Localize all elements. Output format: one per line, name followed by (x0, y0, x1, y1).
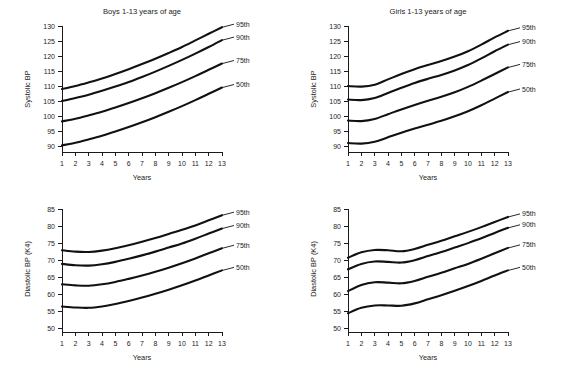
girls-diastolic-y-tick-label: 60 (333, 291, 341, 298)
boys-diastolic-x-tick-label: 3 (87, 340, 91, 347)
boys-systolic-x-tick-label: 10 (178, 160, 186, 167)
girls-diastolic-y-tick-label: 75 (333, 240, 341, 247)
girls-systolic-percentile-label-50th: 50th (522, 86, 536, 93)
boys-diastolic-curve-95th (62, 215, 222, 252)
girls-diastolic-svg: 505560657075808512345678910111213Diastol… (286, 190, 571, 380)
boys-systolic-xlabel: Years (133, 173, 152, 182)
boys-diastolic-x-tick-label: 1 (60, 340, 64, 347)
girls-systolic-title: Girls 1-13 years of age (390, 7, 467, 16)
boys-systolic-leader-95th (223, 24, 235, 27)
girls-systolic-x-tick-label: 11 (478, 160, 485, 167)
boys-systolic-x-tick-label: 13 (218, 160, 226, 167)
boys-diastolic-x-tick-label: 5 (113, 340, 117, 347)
girls-systolic-leader-95th (509, 28, 521, 31)
boys-diastolic-curve-90th (62, 228, 222, 265)
boys-systolic-leader-75th (223, 61, 235, 64)
panel-boys-diastolic: 505560657075808512345678910111213Diastol… (0, 190, 285, 380)
boys-diastolic-percentile-label-75th: 75th (236, 242, 250, 249)
girls-diastolic-y-tick-label: 55 (333, 308, 341, 315)
girls-systolic-ylabel: Systolic BP (309, 70, 318, 107)
girls-systolic-xlabel: Years (419, 173, 438, 182)
girls-systolic-x-tick-label: 2 (359, 160, 363, 167)
boys-diastolic-svg: 505560657075808512345678910111213Diastol… (0, 190, 285, 380)
boys-diastolic-x-tick-label: 12 (205, 340, 213, 347)
boys-systolic-curve-90th (62, 40, 222, 101)
girls-systolic-y-tick-label: 120 (329, 53, 341, 60)
boys-diastolic-x-tick-label: 7 (140, 340, 144, 347)
girls-diastolic-x-tick-label: 5 (399, 340, 403, 347)
boys-diastolic-x-tick-label: 11 (192, 340, 199, 347)
boys-diastolic-y-tick-label: 75 (47, 240, 55, 247)
boys-systolic-x-tick-label: 6 (127, 160, 131, 167)
girls-systolic-x-tick-label: 9 (453, 160, 457, 167)
boys-diastolic-y-tick-label: 70 (47, 257, 55, 264)
panel-girls-diastolic: 505560657075808512345678910111213Diastol… (286, 190, 571, 380)
girls-diastolic-x-tick-label: 12 (491, 340, 499, 347)
girls-diastolic-y-tick-label: 85 (333, 206, 341, 213)
girls-diastolic-x-tick-label: 13 (504, 340, 512, 347)
girls-diastolic-ylabel: Diastolic BP (K4) (309, 241, 318, 297)
girls-systolic-svg: Girls 1-13 years of age90951001051101151… (286, 0, 571, 190)
boys-diastolic-leader-90th (223, 225, 235, 228)
boys-diastolic-y-tick-label: 60 (47, 291, 55, 298)
girls-systolic-y-tick-label: 110 (330, 83, 341, 90)
boys-systolic-x-tick-label: 2 (73, 160, 77, 167)
boys-systolic-y-tick-label: 115 (44, 68, 55, 75)
boys-systolic-curve-95th (62, 27, 222, 89)
boys-diastolic-y-tick-label: 85 (47, 206, 55, 213)
boys-systolic-x-tick-label: 1 (60, 160, 64, 167)
boys-systolic-curve-75th (62, 64, 222, 122)
boys-diastolic-y-tick-label: 80 (47, 223, 55, 230)
girls-systolic-x-tick-label: 5 (399, 160, 403, 167)
girls-diastolic-y-tick-label: 65 (333, 274, 341, 281)
girls-systolic-leader-50th (509, 89, 521, 92)
girls-diastolic-percentile-label-75th: 75th (522, 241, 536, 248)
girls-diastolic-x-tick-label: 7 (426, 340, 430, 347)
girls-systolic-percentile-label-95th: 95th (522, 24, 536, 31)
girls-systolic-x-tick-label: 10 (464, 160, 472, 167)
girls-diastolic-curve-90th (348, 228, 508, 270)
girls-systolic-y-tick-label: 90 (333, 143, 341, 150)
girls-diastolic-y-tick-label: 50 (333, 325, 341, 332)
girls-diastolic-x-tick-label: 2 (359, 340, 363, 347)
girls-diastolic-xlabel: Years (419, 353, 438, 362)
girls-diastolic-x-tick-label: 4 (386, 340, 390, 347)
girls-diastolic-x-tick-label: 3 (373, 340, 377, 347)
boys-systolic-y-tick-label: 100 (43, 113, 55, 120)
girls-diastolic-percentile-label-90th: 90th (522, 221, 536, 228)
boys-systolic-percentile-label-90th: 90th (236, 34, 250, 41)
boys-diastolic-x-tick-label: 6 (127, 340, 131, 347)
boys-diastolic-xlabel: Years (133, 353, 152, 362)
boys-diastolic-y-tick-label: 55 (47, 308, 55, 315)
girls-diastolic-leader-90th (509, 225, 521, 228)
boys-systolic-percentile-label-50th: 50th (236, 81, 250, 88)
boys-systolic-percentile-label-95th: 95th (236, 21, 250, 28)
boys-systolic-y-tick-label: 95 (47, 128, 55, 135)
boys-systolic-y-tick-label: 120 (43, 53, 55, 60)
boys-diastolic-percentile-label-50th: 50th (236, 264, 250, 271)
boys-diastolic-x-tick-label: 13 (218, 340, 226, 347)
girls-systolic-y-tick-label: 125 (329, 38, 341, 45)
panel-boys-systolic: Boys 1-13 years of age909510010511011512… (0, 0, 285, 190)
boys-diastolic-y-tick-label: 65 (47, 274, 55, 281)
girls-systolic-leader-90th (509, 42, 521, 45)
girls-systolic-percentile-label-90th: 90th (522, 38, 536, 45)
boys-systolic-x-tick-label: 11 (192, 160, 199, 167)
boys-diastolic-percentile-label-90th: 90th (236, 222, 250, 229)
boys-diastolic-y-tick-label: 50 (47, 325, 55, 332)
boys-diastolic-x-tick-label: 4 (100, 340, 104, 347)
girls-systolic-curve-75th (348, 67, 508, 121)
boys-systolic-leader-50th (223, 85, 235, 88)
boys-systolic-x-tick-label: 12 (205, 160, 213, 167)
boys-systolic-title: Boys 1-13 years of age (103, 7, 181, 16)
girls-diastolic-x-tick-label: 10 (464, 340, 472, 347)
girls-diastolic-x-tick-label: 9 (453, 340, 457, 347)
panel-girls-systolic: Girls 1-13 years of age90951001051101151… (286, 0, 571, 190)
girls-diastolic-percentile-label-50th: 50th (522, 264, 536, 271)
girls-diastolic-leader-75th (509, 245, 521, 248)
boys-diastolic-ylabel: Diastolic BP (K4) (23, 241, 32, 297)
girls-systolic-x-tick-label: 3 (373, 160, 377, 167)
girls-diastolic-x-tick-label: 6 (413, 340, 417, 347)
girls-diastolic-y-tick-label: 80 (333, 223, 341, 230)
girls-systolic-x-tick-label: 6 (413, 160, 417, 167)
